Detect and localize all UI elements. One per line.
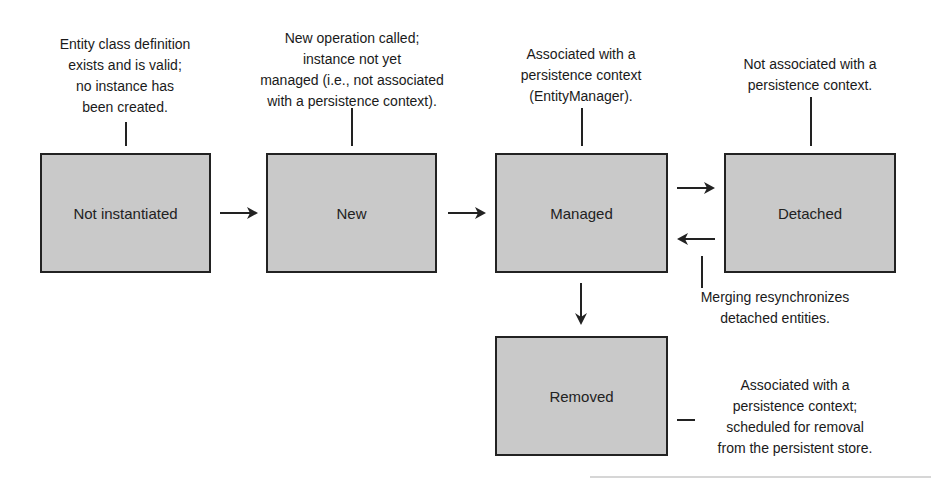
note-line: detached entities. bbox=[688, 308, 862, 329]
state-label: Not instantiated bbox=[73, 205, 177, 222]
state-not-instantiated: Not instantiated bbox=[40, 153, 211, 273]
state-managed: Managed bbox=[495, 153, 668, 273]
arrow-down-icon bbox=[574, 283, 588, 327]
note-line: Merging resynchronizes bbox=[688, 287, 862, 308]
note-line: exists and is valid; bbox=[35, 55, 215, 76]
note-line: New operation called; bbox=[236, 28, 468, 49]
note-managed: Associated with a persistence context (E… bbox=[490, 44, 672, 107]
note-detached: Not associated with a persistence contex… bbox=[720, 54, 900, 96]
connector-not-instantiated-note bbox=[125, 122, 127, 146]
note-new: New operation called; instance not yet m… bbox=[236, 28, 468, 112]
note-line: Associated with a bbox=[490, 44, 672, 65]
note-merging: Merging resynchronizes detached entities… bbox=[688, 287, 862, 329]
note-line: Not associated with a bbox=[720, 54, 900, 75]
note-line: Associated with a bbox=[700, 375, 890, 396]
arrow-right-icon bbox=[220, 206, 260, 220]
state-new: New bbox=[266, 153, 437, 273]
note-line: (EntityManager). bbox=[490, 86, 672, 107]
state-label: Detached bbox=[778, 205, 842, 222]
state-label: Removed bbox=[549, 388, 613, 405]
note-removed: Associated with a persistence context; s… bbox=[700, 375, 890, 459]
state-detached: Detached bbox=[724, 153, 896, 273]
state-label: New bbox=[336, 205, 366, 222]
state-label: Managed bbox=[550, 205, 613, 222]
connector-merging-note bbox=[701, 256, 703, 288]
connector-detached-note bbox=[810, 97, 812, 146]
note-line: Entity class definition bbox=[35, 34, 215, 55]
note-line: no instance has bbox=[35, 76, 215, 97]
arrow-right-icon bbox=[677, 181, 717, 195]
note-line: managed (i.e., not associated bbox=[236, 70, 468, 91]
connector-managed-note bbox=[581, 108, 583, 146]
note-not-instantiated: Entity class definition exists and is va… bbox=[35, 34, 215, 118]
note-line: persistence context bbox=[490, 65, 672, 86]
divider bbox=[590, 476, 931, 478]
note-line: instance not yet bbox=[236, 49, 468, 70]
state-removed: Removed bbox=[495, 336, 668, 456]
arrow-left-icon bbox=[677, 232, 717, 246]
note-line: persistence context. bbox=[720, 75, 900, 96]
connector-new-note bbox=[351, 108, 353, 146]
note-line: been created. bbox=[35, 97, 215, 118]
note-line: scheduled for removal bbox=[700, 417, 890, 438]
arrow-right-icon bbox=[448, 206, 488, 220]
note-line: from the persistent store. bbox=[700, 438, 890, 459]
note-line: persistence context; bbox=[700, 396, 890, 417]
connector-removed-note bbox=[677, 419, 695, 421]
